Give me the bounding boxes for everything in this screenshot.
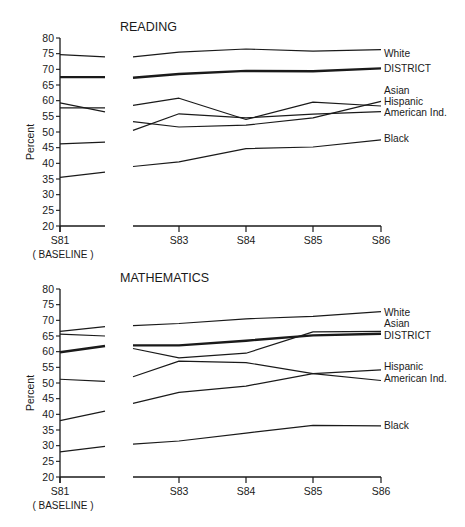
math-x-tick-label: S83 [170,485,189,497]
math-legend-label: American Ind. [384,373,447,384]
math-y-tick-label: 25 [42,455,54,467]
reading-baseline-line [60,142,105,144]
reading-title: READING [120,20,177,34]
math-y-tick-label: 40 [42,408,54,420]
reading-y-tick-label: 50 [42,126,54,138]
math-y-axis-label: Percent [24,375,36,411]
math-series-line [133,425,381,444]
math-legend-label: Hispanic [384,361,423,372]
reading-y-tick-label: 30 [42,188,54,200]
reading-legend-label: Hispanic [384,96,423,107]
reading-y-tick-label: 65 [42,79,54,91]
reading-chart: READING 20253035404550556065707580Percen… [24,20,447,260]
reading-y-tick-label: 55 [42,110,54,122]
math-series-line [133,361,381,380]
reading-legend-label: Asian [384,85,409,96]
reading-legend-label: Black [384,133,410,144]
reading-x-tick-label: S85 [304,234,323,246]
math-chart: MATHEMATICS 20253035404550556065707580Pe… [24,271,447,511]
math-baseline-line [60,327,105,332]
math-y-tick-label: 60 [42,345,54,357]
reading-series-line [133,49,381,57]
math-series-line [133,334,381,346]
math-y-tick-label: 55 [42,361,54,373]
reading-y-tick-label: 35 [42,173,54,185]
math-y-tick-label: 65 [42,330,54,342]
math-baseline-line [60,379,105,381]
math-x-tick-label: S81 [51,485,70,497]
math-y-tick-label: 30 [42,439,54,451]
reading-y-axis-label: Percent [24,124,36,160]
reading-series-line [133,140,381,167]
reading-baseline-label: ( BASELINE ) [32,249,93,260]
reading-y-tick-label: 75 [42,47,54,59]
math-y-tick-label: 75 [42,298,54,310]
reading-x-tick-label: S84 [237,234,256,246]
math-y-tick-label: 50 [42,377,54,389]
reading-legend-label: American Ind. [384,107,447,118]
reading-y-tick-label: 40 [42,157,54,169]
reading-y-tick-label: 70 [42,63,54,75]
reading-x-tick-label: S83 [170,234,189,246]
math-y-tick-label: 35 [42,424,54,436]
reading-y-tick-label: 25 [42,204,54,216]
math-series-line [133,370,381,404]
reading-baseline-line [60,55,105,57]
math-series-line [133,312,381,326]
math-title: MATHEMATICS [120,271,209,285]
reading-series-line [133,68,381,77]
chart-canvas: READING 20253035404550556065707580Percen… [0,0,465,527]
math-baseline-line [60,446,105,452]
reading-legend-label: DISTRICT [384,63,431,74]
math-x-tick-label: S84 [237,485,256,497]
math-x-tick-label: S85 [304,485,323,497]
math-baseline-line [60,334,105,336]
math-baseline-line [60,411,105,420]
reading-y-tick-label: 60 [42,94,54,106]
math-y-tick-label: 45 [42,392,54,404]
math-legend-label: Asian [384,318,409,329]
reading-legend-label: White [384,48,410,59]
reading-x-tick-label: S86 [372,234,391,246]
reading-x-tick-label: S81 [51,234,70,246]
reading-y-tick-label: 45 [42,141,54,153]
reading-baseline-line [60,172,105,177]
math-x-tick-label: S86 [372,485,391,497]
math-y-tick-label: 20 [42,471,54,483]
math-legend-label: Black [384,420,410,431]
math-legend-label: White [384,307,410,318]
math-y-tick-label: 80 [42,283,54,295]
math-legend-label: DISTRICT [384,330,431,341]
reading-series-line [133,112,381,131]
reading-series-line [133,101,381,127]
math-baseline-line [60,346,105,352]
reading-y-tick-label: 80 [42,32,54,44]
math-baseline-label: ( BASELINE ) [32,500,93,511]
reading-series-line [133,98,381,119]
math-y-tick-label: 70 [42,314,54,326]
reading-y-tick-label: 20 [42,220,54,232]
